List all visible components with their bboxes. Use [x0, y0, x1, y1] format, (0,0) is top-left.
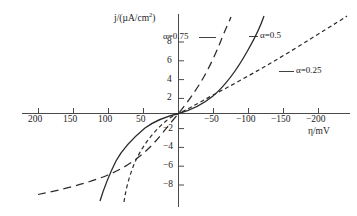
curve-alpha-025: [124, 16, 347, 202]
series-label-alpha-075: α=0.75: [163, 32, 189, 41]
y-tick-label-6: 6: [167, 56, 172, 66]
axis-lines: [22, 14, 350, 207]
x-tick-label-minus200: −200: [306, 115, 326, 125]
y-axis-title-suffix: ): [152, 13, 155, 23]
x-tick-label-100: 100: [98, 115, 112, 125]
y-tick-label-minus2: −2: [163, 124, 173, 134]
series-label-alpha-05: α=0.5: [260, 31, 281, 40]
y-tick-label-minus8: −8: [163, 180, 173, 190]
y-axis-title: j/(µA/cm2): [114, 12, 155, 24]
x-tick-label-150: 150: [63, 115, 77, 125]
y-axis-title-unit: µA/cm: [122, 13, 149, 23]
y-tick-label-minus4: −4: [163, 142, 173, 152]
y-tick-label-4: 4: [167, 75, 172, 85]
butler-volmer-current-potential-figure: j/(µA/cm2) η/mV 200 150 100 50 −50 −100 …: [0, 0, 357, 216]
x-tick-label-minus50: −50: [204, 115, 219, 125]
x-axis-title: η/mV: [308, 127, 330, 137]
y-tick-label-minus6: −6: [163, 161, 173, 171]
y-tick-label-2: 2: [167, 93, 172, 103]
series-label-alpha-025: α=0.25: [296, 66, 322, 75]
x-tick-label-minus150: −150: [271, 115, 291, 125]
x-tick-label-minus100: −100: [236, 115, 256, 125]
x-tick-label-200: 200: [28, 115, 42, 125]
curve-alpha-075: [38, 17, 231, 195]
x-tick-label-50: 50: [136, 115, 146, 125]
annotation-leader-lines: [199, 37, 294, 72]
